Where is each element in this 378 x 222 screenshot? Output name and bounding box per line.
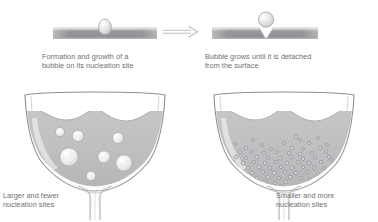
figure-canvas: Formation and growth of a bubble on its …	[0, 0, 378, 222]
liquid-bubble	[283, 170, 286, 173]
diagram-svg	[0, 0, 378, 222]
liquid-bubble	[287, 151, 290, 154]
liquid-bubble	[112, 132, 123, 143]
liquid-bubble	[268, 166, 271, 169]
liquid-bubble	[244, 146, 248, 150]
liquid-bubble	[307, 141, 310, 144]
top-right-diagram	[212, 12, 318, 39]
liquid-bubble	[255, 155, 259, 159]
liquid-bubble	[289, 155, 292, 158]
liquid-bubble	[241, 161, 245, 165]
liquid-bubble	[72, 130, 84, 142]
bubble-highlight	[115, 135, 118, 137]
liquid-bubble	[274, 160, 277, 163]
teardrop-bubble-attached	[99, 19, 112, 35]
liquid-bubble	[86, 171, 96, 181]
liquid-bubble	[244, 156, 247, 159]
liquid-bubble	[266, 175, 270, 179]
right-glass-liquid	[209, 100, 359, 195]
liquid-bubble	[290, 146, 294, 150]
liquid-bubble	[298, 152, 302, 156]
liquid-bubble	[288, 175, 292, 179]
liquid-bubble	[294, 171, 298, 175]
liquid-bubble	[235, 177, 238, 180]
liquid-bubble	[301, 165, 304, 168]
process-arrow	[163, 26, 198, 37]
liquid-bubble	[290, 166, 294, 170]
left-glass-stem	[70, 185, 120, 220]
liquid-bubble	[323, 167, 326, 170]
liquid-bubble	[116, 155, 132, 171]
liquid-bubble	[250, 171, 254, 175]
liquid-bubble	[317, 137, 320, 140]
caption-larger-fewer-sites: Larger and fewer nucleation sites	[3, 191, 59, 210]
liquid-bubble	[252, 139, 255, 142]
liquid-bubble	[299, 139, 302, 142]
liquid-bubble	[294, 135, 297, 138]
liquid-bubble	[319, 160, 322, 163]
caption-smaller-more-sites: Smaller and more nucleation sites	[276, 191, 334, 210]
liquid-bubble	[302, 148, 305, 151]
liquid-bubble	[263, 161, 267, 165]
caption-formation-growth: Formation and growth of a bubble on its …	[42, 52, 134, 71]
liquid-bubble	[272, 171, 276, 175]
round-bubble-detached	[258, 12, 273, 27]
liquid-bubble	[273, 181, 276, 184]
left-glass-liquid	[20, 100, 170, 195]
bubble-highlight	[119, 158, 124, 162]
liquid-bubble	[246, 166, 249, 169]
caption-bubble-detachment: Bubble grows until it is detached from t…	[205, 52, 311, 71]
liquid-bubble	[331, 159, 334, 162]
liquid-bubble	[311, 152, 314, 155]
liquid-bubble	[279, 165, 282, 168]
liquid-bubble	[307, 161, 311, 165]
liquid-bubble	[270, 148, 273, 151]
liquid-bubble	[55, 127, 64, 136]
liquid-bubble	[296, 160, 299, 163]
liquid-bubble	[285, 161, 289, 165]
liquid-bubble	[327, 155, 330, 158]
liquid-bubble	[299, 176, 302, 179]
heated-surface-bar-with-cavity	[212, 27, 318, 39]
liquid-bubble	[60, 148, 78, 166]
liquid-bubble	[234, 155, 238, 159]
liquid-bubble	[262, 151, 265, 154]
bubble-highlight	[100, 154, 104, 157]
liquid-bubble	[247, 186, 250, 189]
liquid-bubble	[261, 170, 264, 173]
liquid-bubble	[301, 157, 304, 160]
liquid-bubble	[265, 190, 268, 193]
bubble-highlight	[63, 152, 69, 156]
liquid-bubble	[257, 165, 261, 169]
liquid-bubble	[251, 151, 254, 154]
liquid-bubble	[283, 142, 286, 145]
liquid-bubble	[312, 166, 315, 169]
top-left-diagram	[53, 19, 157, 39]
liquid-bubble	[228, 166, 231, 169]
liquid-bubble	[267, 157, 270, 160]
liquid-bubble	[284, 180, 288, 184]
liquid-bubble	[305, 170, 308, 173]
liquid-bubble	[318, 146, 321, 149]
liquid-bubble	[276, 151, 279, 154]
bubble-highlight	[75, 133, 78, 136]
liquid-bubble	[261, 144, 264, 147]
liquid-bubble	[277, 176, 280, 179]
liquid-bubble	[324, 150, 327, 153]
liquid-bubble	[98, 151, 110, 163]
liquid-bubble	[278, 156, 282, 160]
liquid-bubble	[326, 144, 329, 147]
liquid-bubble	[234, 143, 237, 146]
liquid-bubble	[314, 157, 317, 160]
liquid-bubble	[238, 150, 241, 153]
liquid-bubble	[252, 160, 255, 163]
